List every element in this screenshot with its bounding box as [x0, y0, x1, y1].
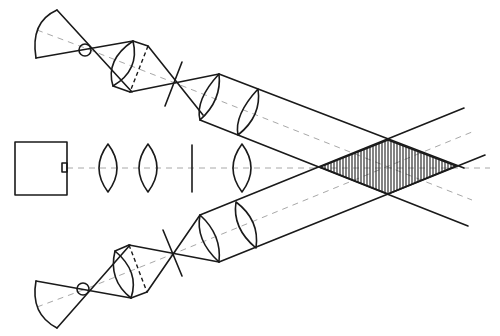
lower-beam-path — [35, 108, 485, 328]
upper-relay-lens-2 — [237, 89, 258, 135]
optical-diagram — [0, 0, 500, 336]
upper-beam-top-edge — [219, 74, 464, 168]
source-port — [62, 163, 67, 172]
source-housing — [15, 142, 67, 195]
source-box — [15, 142, 67, 195]
lower-relay-lens-1 — [199, 215, 219, 262]
lower-condenser-bottom — [131, 292, 147, 298]
center-optics — [99, 144, 251, 192]
lower-fan-arc — [35, 281, 57, 328]
lower-condenser-lens — [113, 251, 133, 298]
upper-fan-arc — [35, 10, 57, 58]
upper-condenser-lens — [111, 41, 134, 86]
diagram-canvas — [0, 0, 500, 336]
lower-condenser-plane — [129, 245, 147, 292]
upper-condenser-plane — [130, 46, 148, 92]
upper-condenser-top — [133, 41, 148, 46]
lower-relay-lens-2 — [235, 202, 256, 248]
lower-cross-stop — [163, 230, 182, 276]
